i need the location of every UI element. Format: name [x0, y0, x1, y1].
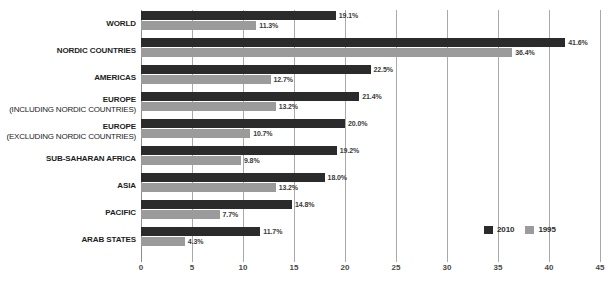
bar-1995: [141, 183, 276, 192]
bar-value-label: 11.7%: [263, 227, 282, 236]
legend-label: 2010: [497, 225, 514, 234]
category-label-text: SUB-SAHARAN AFRICA: [46, 154, 136, 164]
category-label-text: AMERICAS: [94, 73, 136, 83]
bar-1995: [141, 156, 241, 165]
x-tick-label: 15: [290, 263, 299, 272]
bar-value-label: 22.5%: [374, 65, 393, 74]
bar-2010: [141, 173, 325, 182]
category-label-text: ASIA: [117, 181, 136, 191]
bar-rows: 19.1%11.3%41.6%36.4%22.5%12.7%21.4%13.2%…: [141, 10, 600, 253]
category-label-text: ARAB STATES: [81, 235, 136, 245]
category-label: EUROPE(INCLUDING NORDIC COUNTRIES): [0, 91, 136, 118]
bar-value-label: 18.0%: [328, 173, 347, 182]
bar-2010: [141, 65, 371, 74]
bar-row: 18.0%13.2%: [141, 172, 600, 199]
category-label: ASIA: [0, 172, 136, 199]
bar-chart: WORLDNORDIC COUNTRIESAMERICASEUROPE(INCL…: [0, 0, 606, 284]
plot-area: 19.1%11.3%41.6%36.4%22.5%12.7%21.4%13.2%…: [141, 10, 600, 255]
bar-value-label: 11.3%: [259, 21, 278, 30]
bar-row: 22.5%12.7%: [141, 64, 600, 91]
bar-1995: [141, 210, 220, 219]
bar-value-label: 19.2%: [340, 146, 359, 155]
x-axis-tick-labels: 051015202530354045: [141, 263, 600, 277]
x-tick-label: 40: [545, 263, 554, 272]
bar-value-label: 9.8%: [244, 156, 260, 165]
bar-value-label: 14.8%: [295, 200, 314, 209]
bar-value-label: 7.7%: [223, 210, 239, 219]
x-tick-label: 5: [190, 263, 194, 272]
category-label-text: WORLD: [106, 19, 136, 29]
x-tick-label: 45: [596, 263, 605, 272]
bar-2010: [141, 200, 292, 209]
legend-swatch-icon: [484, 226, 493, 234]
category-label-text: PACIFIC: [105, 208, 136, 218]
legend-swatch-icon: [525, 226, 534, 234]
bar-value-label: 41.6%: [568, 38, 587, 47]
category-label: WORLD: [0, 10, 136, 37]
legend-item-1995[interactable]: 1995: [525, 225, 555, 234]
bar-value-label: 19.1%: [339, 11, 358, 20]
category-label: ARAB STATES: [0, 226, 136, 253]
bar-row: 14.8%7.7%: [141, 199, 600, 226]
bar-value-label: 10.7%: [253, 129, 272, 138]
bar-row: 41.6%36.4%: [141, 37, 600, 64]
category-label: PACIFIC: [0, 199, 136, 226]
bar-1995: [141, 75, 271, 84]
bar-value-label: 4.3%: [188, 237, 204, 246]
bar-row: 19.1%11.3%: [141, 10, 600, 37]
bar-2010: [141, 146, 337, 155]
bar-1995: [141, 48, 512, 57]
category-label-text: EUROPE: [103, 95, 136, 105]
bar-2010: [141, 227, 260, 236]
category-label: SUB-SAHARAN AFRICA: [0, 145, 136, 172]
x-tick-label: 10: [239, 263, 248, 272]
legend-label: 1995: [538, 225, 555, 234]
bar-2010: [141, 38, 565, 47]
bar-row: 20.0%10.7%: [141, 118, 600, 145]
chart-legend: 20101995: [484, 225, 556, 234]
category-label: AMERICAS: [0, 64, 136, 91]
x-tick-label: 25: [392, 263, 401, 272]
bar-value-label: 13.2%: [279, 183, 298, 192]
bar-value-label: 20.0%: [348, 119, 367, 128]
bar-value-label: 13.2%: [279, 102, 298, 111]
bar-2010: [141, 92, 359, 101]
bar-row: 21.4%13.2%: [141, 91, 600, 118]
category-label-text: EUROPE: [103, 122, 136, 132]
bar-1995: [141, 21, 256, 30]
category-label: NORDIC COUNTRIES: [0, 37, 136, 64]
category-sublabel-text: (EXCLUDING NORDIC COUNTRIES): [6, 132, 136, 142]
bar-value-label: 12.7%: [274, 75, 293, 84]
bar-value-label: 21.4%: [362, 92, 381, 101]
bar-2010: [141, 119, 345, 128]
category-label-text: NORDIC COUNTRIES: [57, 46, 136, 56]
legend-item-2010[interactable]: 2010: [484, 225, 514, 234]
bar-1995: [141, 237, 185, 246]
x-tick-label: 30: [443, 263, 452, 272]
bar-1995: [141, 129, 250, 138]
bar-2010: [141, 11, 336, 20]
bar-1995: [141, 102, 276, 111]
category-label-column: WORLDNORDIC COUNTRIESAMERICASEUROPE(INCL…: [0, 10, 136, 253]
category-sublabel-text: (INCLUDING NORDIC COUNTRIES): [9, 105, 136, 115]
gridline-45: [600, 10, 601, 262]
bar-value-label: 36.4%: [515, 48, 534, 57]
x-tick-label: 20: [341, 263, 350, 272]
x-tick-label: 0: [139, 263, 143, 272]
bar-row: 19.2%9.8%: [141, 145, 600, 172]
x-tick-label: 35: [494, 263, 503, 272]
category-label: EUROPE(EXCLUDING NORDIC COUNTRIES): [0, 118, 136, 145]
